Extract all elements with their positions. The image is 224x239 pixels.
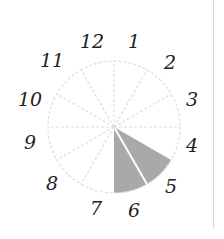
label-10: 10 — [18, 88, 42, 110]
label-8: 8 — [46, 172, 58, 194]
hour-labels: 12 1 2 3 4 5 6 7 8 9 10 11 — [18, 30, 198, 221]
label-7: 7 — [90, 197, 103, 219]
vertical-divider — [213, 0, 214, 228]
label-9: 9 — [24, 131, 36, 153]
label-6: 6 — [128, 199, 140, 221]
label-4: 4 — [185, 134, 198, 156]
label-11: 11 — [40, 49, 64, 71]
clock-dial: 12 1 2 3 4 5 6 7 8 9 10 11 — [0, 0, 224, 239]
label-12: 12 — [80, 30, 104, 52]
label-3: 3 — [186, 88, 198, 110]
label-5: 5 — [165, 175, 177, 197]
label-2: 2 — [163, 51, 176, 73]
shaded-sectors — [114, 127, 171, 193]
label-1: 1 — [128, 30, 140, 52]
